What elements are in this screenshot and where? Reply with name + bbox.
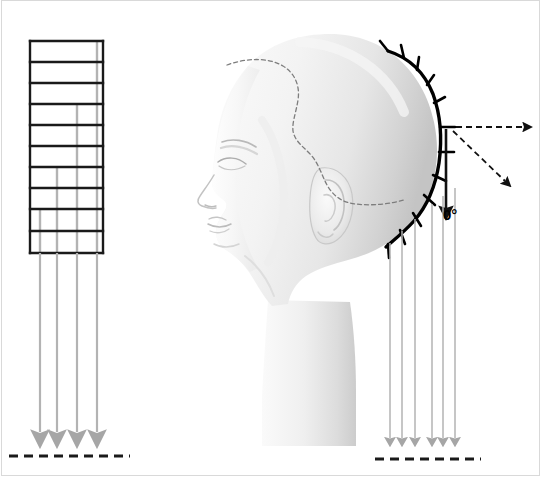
section-tick-12 <box>388 244 389 258</box>
neck-shape <box>262 300 356 446</box>
elevation-arrow-group <box>446 127 524 208</box>
figure-root: 0° <box>0 0 552 494</box>
section-tick-4 <box>427 75 434 85</box>
forty-five-degree-arrow <box>453 131 505 181</box>
left-drop-arrows <box>40 253 97 432</box>
section-grid-group <box>30 41 103 253</box>
zero-degree-label: 0° <box>443 206 457 223</box>
nostril-shadow <box>205 205 216 207</box>
mannequin-head-group <box>198 34 437 446</box>
diagram-canvas <box>0 0 552 494</box>
